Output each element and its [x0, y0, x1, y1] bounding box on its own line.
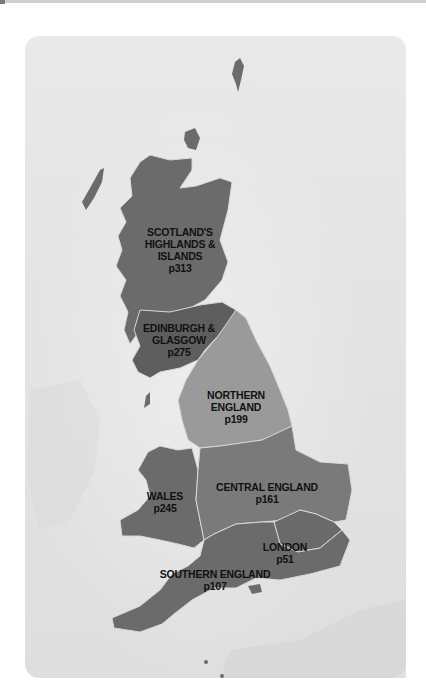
label-central-england: CENTRAL ENGLAND p161 — [212, 481, 322, 505]
page-ref[interactable]: p51 — [255, 553, 315, 565]
france-landmass — [220, 600, 406, 678]
ireland-landmass — [28, 380, 100, 530]
label-line: SCOTLAND'S — [147, 226, 213, 238]
orkney-islands — [184, 128, 200, 150]
page-ref[interactable]: p107 — [150, 580, 280, 592]
label-southern-england: SOUTHERN ENGLAND p107 — [150, 568, 280, 592]
label-line: NORTHERN — [207, 389, 265, 401]
channel-island-1 — [204, 660, 208, 664]
label-line: LONDON — [263, 541, 307, 553]
label-line: EDINBURGH & — [143, 322, 215, 334]
label-line: GLASGOW — [152, 334, 206, 346]
label-northern-england: NORTHERN ENGLAND p199 — [196, 389, 276, 425]
page-ref[interactable]: p275 — [134, 346, 224, 358]
page-ref[interactable]: p245 — [140, 502, 190, 514]
label-line: SOUTHERN ENGLAND — [160, 568, 271, 580]
label-line: ENGLAND — [211, 401, 262, 413]
page-ref[interactable]: p161 — [212, 493, 322, 505]
label-wales: WALES p245 — [140, 490, 190, 514]
shetland-islands — [232, 58, 244, 92]
label-london: LONDON p51 — [255, 541, 315, 565]
label-scotland-highlands: SCOTLAND'S HIGHLANDS & ISLANDS p313 — [130, 226, 230, 274]
page-ref[interactable]: p313 — [130, 262, 230, 274]
channel-island-2 — [220, 674, 224, 678]
outer-hebrides — [82, 168, 104, 210]
label-line: WALES — [147, 490, 183, 502]
isle-of-man — [144, 392, 150, 408]
label-line: CENTRAL ENGLAND — [216, 481, 318, 493]
label-line: ISLANDS — [158, 250, 203, 262]
label-line: HIGHLANDS & — [145, 238, 216, 250]
label-edinburgh-glasgow: EDINBURGH & GLASGOW p275 — [134, 322, 224, 358]
page-ref[interactable]: p199 — [196, 413, 276, 425]
